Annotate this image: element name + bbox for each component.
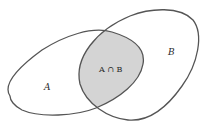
intersection-region: [79, 10, 199, 120]
intersection-label: A ∩ B: [98, 65, 123, 74]
set-b-label: B: [167, 47, 175, 57]
set-a-label: A: [43, 82, 51, 92]
venn-diagram: A B A ∩ B: [0, 0, 206, 130]
